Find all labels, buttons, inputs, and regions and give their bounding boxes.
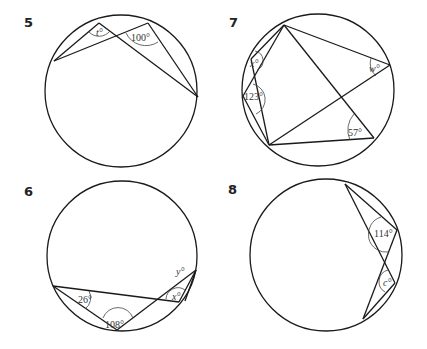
angle-arc-6-108 — [103, 308, 133, 318]
diagram-number-8: 8 — [228, 182, 237, 197]
angle-label-7-w: w° — [369, 63, 380, 74]
angle-label-7-123: 123° — [244, 91, 263, 102]
angle-label-8-c: c° — [383, 277, 391, 288]
circle-7 — [242, 14, 394, 166]
angle-label-6-26: 26° — [78, 294, 92, 305]
chord-7-sr — [269, 138, 374, 145]
circle-8 — [250, 179, 402, 331]
diagram-5: 5 t° 100° — [24, 15, 198, 167]
angle-label-6-x: x° — [171, 291, 180, 302]
chord-7-us — [251, 59, 269, 145]
diagram-number-7: 7 — [229, 15, 238, 30]
angle-label-6-108: 108° — [105, 319, 124, 330]
chord-8-ef — [345, 184, 397, 230]
diagram-6: 6 26° 108° x° y° — [24, 181, 197, 331]
diagram-8: 8 114° c° — [228, 179, 402, 331]
angle-label-5-100: 100° — [131, 32, 150, 43]
angle-label-6-y: y° — [175, 266, 184, 277]
chord-8-hf — [363, 230, 397, 319]
circle-6 — [47, 181, 197, 331]
circle-theorem-diagrams: 5 t° 100° 7 x° 123° w° 57° 6 — [0, 0, 427, 349]
diagram-7: 7 x° 123° w° 57° — [229, 14, 394, 166]
circle-5 — [45, 15, 197, 167]
angle-label-5-t: t° — [96, 27, 103, 38]
chord-6-mn — [117, 270, 196, 330]
angle-label-7-57: 57° — [348, 127, 362, 138]
chord-8-hg — [363, 283, 395, 319]
angle-label-8-114: 114° — [374, 228, 393, 239]
diagram-number-5: 5 — [24, 15, 33, 30]
chord-7-sq — [269, 65, 390, 145]
diagram-number-6: 6 — [24, 184, 33, 199]
angle-label-7-x: x° — [249, 58, 258, 69]
